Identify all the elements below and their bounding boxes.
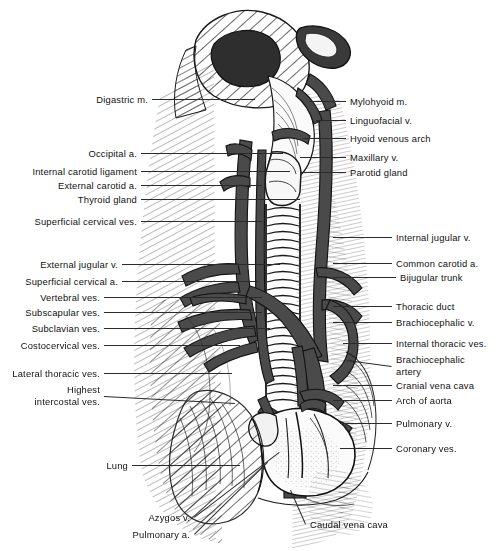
leader-common-carotid-a [333,263,392,264]
leader-arch-of-aorta [333,400,392,401]
label-vertebral-ves: Vertebral ves. [40,292,100,303]
lung [170,390,264,523]
larynx-and-trachea [265,152,301,410]
azygos-vein [258,396,288,452]
leader-pulmonary-v [340,423,392,424]
leader-mylohyoid-m [309,101,346,102]
label-digastric-m: Digastric m. [96,94,148,105]
label-caudal-vena-cava: Caudal vena cava [310,519,388,530]
leader-external-carotid-a [141,185,262,186]
superficial-cervical-artery [180,282,240,307]
label-brachiocephalic-v: Brachiocephalic v. [396,317,475,328]
label-common-carotid-a: Common carotid a. [396,258,478,269]
occipital-artery [226,144,252,160]
thoracic-wall [186,316,376,470]
leader-caudal-vena-cava [290,490,306,524]
label-coronary-ves: Coronary ves. [396,443,457,454]
internal-thoracic-vessels [326,300,358,384]
label-brachiocephalic-artery-line-2: artery [396,366,488,378]
label-subclavian-ves: Subclavian ves. [32,323,100,334]
leader-bijugular-trunk [333,277,396,278]
costocervical-vessels [204,342,258,372]
right-subclavian [322,300,362,324]
leader-hyoid-venous-arch [302,138,346,139]
leader-superficial-cervical-a [122,281,258,282]
linguofacial-vein [306,74,336,110]
label-arch-of-aorta: Arch of aorta [396,395,452,406]
external-carotid-artery [220,176,250,191]
brachiocephalic-artery [292,346,308,406]
caudal-vena-cava [284,470,306,498]
leader-internal-carotid-ligament [141,171,290,172]
label-highest-intercostal-ves-line-1: Highest [8,384,100,396]
leader-subclavian-ves [104,328,270,329]
leader-pulmonary-a [194,462,268,535]
label-lateral-thoracic-ves: Lateral thoracic ves. [12,368,100,379]
label-cranial-vena-cava: Cranial vena cava [396,380,474,391]
label-external-carotid-a: External carotid a. [58,180,137,191]
leader-thyroid-gland [141,199,300,200]
label-internal-carotid-ligament: Internal carotid ligament [32,166,137,177]
label-highest-intercostal-ves: Highestintercostal ves. [8,384,100,408]
right-costocervical [316,268,362,295]
label-subscapular-ves: Subscapular ves. [25,307,100,318]
leader-vertebral-ves [104,297,262,298]
leader-brachiocephalic-artery [347,360,392,367]
vertebral-vessels [190,293,246,306]
leader-lung [132,465,240,466]
pulmonary-vein [312,417,352,436]
maxillary-vein [296,88,322,124]
label-costocervical-ves: Costocervical ves. [21,340,100,351]
leader-digastric-m [152,99,255,100]
head-and-mandible [174,10,350,176]
label-external-jugular-v: External jugular v. [40,259,118,270]
leader-linguofacial-v [316,120,346,121]
label-bijugular-trunk: Bijugular trunk [400,272,463,283]
leader-maxillary-v [300,157,346,158]
label-internal-thoracic-ves: Internal thoracic ves. [396,338,486,349]
leader-coronary-ves [340,448,392,449]
leader-superficial-cervical-ves [141,221,262,222]
superficial-cervical-vein [182,264,240,287]
leader-external-jugular-v [122,264,280,265]
label-superficial-cervical-a: Superficial cervical a. [25,276,118,287]
subclavian-vessels [184,326,256,357]
anatomical-figure: Digastric m.Occipital a.Internal carotid… [0,0,503,551]
external-jugular-vein-right [313,110,332,362]
label-brachiocephalic-artery: Brachiocephalicartery [396,354,488,378]
label-thyroid-gland: Thyroid gland [78,194,137,205]
leader-highest-intercostal-ves [104,396,235,404]
leader-costocervical-ves [104,345,240,346]
leader-occipital-a [141,153,283,154]
label-pulmonary-v: Pulmonary v. [396,418,452,429]
label-internal-jugular-v: Internal jugular v. [396,232,471,243]
label-thoracic-duct: Thoracic duct [396,301,455,312]
label-highest-intercostal-ves-line-2: intercostal ves. [8,396,100,408]
label-maxillary-v: Maxillary v. [350,152,398,163]
label-superficial-cervical-ves: Superficial cervical ves. [35,216,137,227]
leader-lateral-thoracic-ves [104,373,232,374]
leader-parotid-gland [300,172,346,173]
hyoid-venous-arch [272,129,310,144]
cranial-vena-cava [300,348,326,414]
leader-brachiocephalic-v [333,322,392,323]
label-occipital-a: Occipital a. [88,148,137,159]
label-linguofacial-v: Linguofacial v. [350,115,412,126]
label-azygos-v: Azygos v. [148,512,190,523]
tracheal-rings [267,208,299,403]
label-brachiocephalic-artery-line-1: Brachiocephalic [396,354,488,366]
leader-thoracic-duct [333,306,392,307]
leader-internal-jugular-v [333,237,392,238]
leader-cranial-vena-cava [333,385,392,386]
label-pulmonary-a: Pulmonary a. [133,529,190,540]
pulmonary-artery [258,404,296,436]
label-lung: Lung [106,460,128,471]
leader-subscapular-ves [104,312,262,313]
leader-internal-thoracic-ves [343,343,392,344]
label-hyoid-venous-arch: Hyoid venous arch [350,133,431,144]
label-parotid-gland: Parotid gland [350,167,408,178]
label-mylohyoid-m: Mylohyoid m. [350,96,407,107]
